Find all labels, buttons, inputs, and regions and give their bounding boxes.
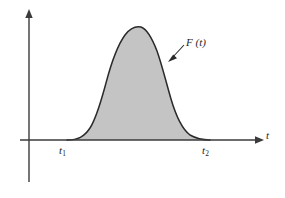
curve-label-arrowhead-icon [168,54,177,62]
tick-label-t1: t1 [59,145,66,156]
tick-label-t2: t2 [202,145,209,156]
x-axis-label: t [266,130,269,141]
x-axis-arrowhead-icon [255,136,264,143]
curve-label: F (t) [186,37,206,48]
figure-canvas [0,0,285,198]
y-axis-arrowhead-icon [25,9,32,18]
figure-container: t1 t2 t F (t) [0,0,285,198]
tick-label-t1-subscript: 1 [62,149,66,158]
tick-label-t2-subscript: 2 [205,149,209,158]
